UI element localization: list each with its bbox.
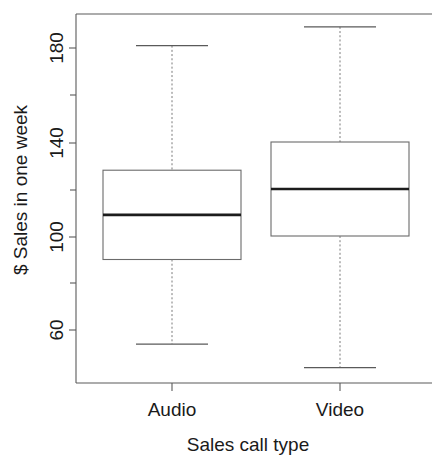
y-tick-label-60: 60 <box>46 319 67 340</box>
x-label-video: Video <box>316 399 364 420</box>
y-axis-title: $ Sales in one week <box>10 104 31 275</box>
boxplot-canvas: 60 100 140 180 $ Sales in one week A <box>0 0 432 457</box>
y-tick-label-140: 140 <box>46 127 67 159</box>
y-tick-label-180: 180 <box>46 32 67 64</box>
y-tick-label-100: 100 <box>46 221 67 253</box>
box-group-video <box>271 27 409 368</box>
box-group-audio <box>103 46 241 344</box>
x-axis-title: Sales call type <box>187 434 310 455</box>
boxplot-figure: 60 100 140 180 $ Sales in one week A <box>0 0 432 457</box>
x-label-audio: Audio <box>148 399 197 420</box>
